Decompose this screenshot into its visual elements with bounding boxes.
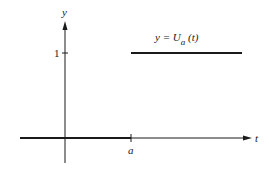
unit-step-diagram: y t 1 a y = Ua (t) <box>0 0 269 169</box>
function-label: y = Ua (t) <box>154 31 199 47</box>
function-label-suffix: (t) <box>185 31 198 44</box>
y-axis-label: y <box>61 6 67 18</box>
t-axis-label: t <box>255 132 259 144</box>
y-tick-label: 1 <box>54 47 60 59</box>
x-tick-label: a <box>128 144 134 156</box>
t-axis-arrow-icon <box>243 136 252 141</box>
function-label-prefix: y = U <box>154 31 182 43</box>
y-axis-arrow-icon <box>63 21 68 30</box>
